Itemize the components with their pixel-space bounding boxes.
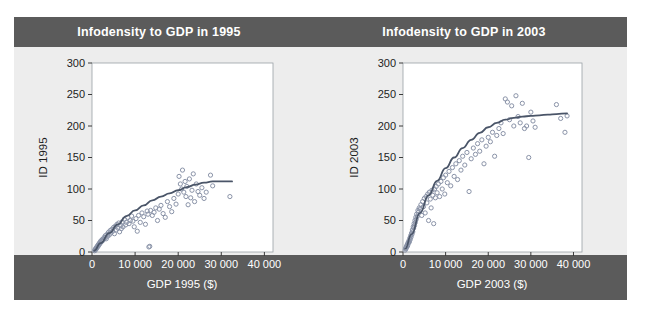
x-tick-label: 10 000 [118,258,152,270]
y-tick-label: 300 [67,57,85,69]
x-tick-label: 30 000 [514,258,548,270]
y-tick-label: 250 [378,88,396,100]
left-scatter-chart: 050100150200250300010 00020 00030 00040 … [37,57,281,290]
x-tick-label: 30 000 [204,258,238,270]
x-axis-title: GDP 1995 ($) [147,278,218,290]
figure-canvas: Infodensity to GDP in 1995 Infodensity t… [0,0,645,314]
x-tick-label: 0 [400,258,406,270]
y-tick-label: 300 [378,57,396,69]
y-tick-label: 0 [79,246,85,258]
x-tick-label: 20 000 [161,258,195,270]
y-tick-label: 100 [378,183,396,195]
x-tick-label: 40 000 [557,258,591,270]
x-tick-label: 20 000 [471,258,505,270]
y-tick-label: 250 [67,88,85,100]
y-tick-label: 50 [384,214,396,226]
x-tick-label: 40 000 [248,258,282,270]
charts-svg: 050100150200250300010 00020 00030 00040 … [0,0,645,314]
y-tick-label: 100 [67,183,85,195]
y-tick-label: 150 [378,151,396,163]
right-scatter-chart: 050100150200250300010 00020 00030 00040 … [348,57,590,290]
y-tick-label: 0 [390,246,396,258]
x-tick-label: 10 000 [429,258,463,270]
y-axis-title: ID 1995 [37,137,49,177]
x-tick-label: 0 [89,258,95,270]
y-tick-label: 200 [378,120,396,132]
y-axis-title: ID 2003 [348,137,360,177]
x-axis-title: GDP 2003 ($) [457,278,528,290]
y-tick-label: 200 [67,120,85,132]
y-tick-label: 150 [67,151,85,163]
y-tick-label: 50 [73,214,85,226]
